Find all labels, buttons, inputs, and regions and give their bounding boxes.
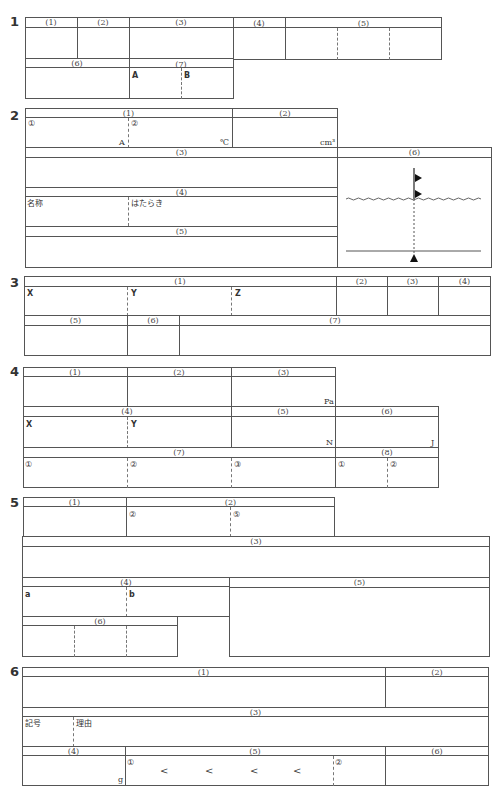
q2-answer-5[interactable] <box>26 237 337 267</box>
q4-header-6: (6) <box>335 407 439 416</box>
q4-header-7: (7) <box>23 448 335 457</box>
q4-answer-7-3[interactable] <box>232 458 334 487</box>
q4-answer-8-1[interactable] <box>336 458 386 487</box>
q3-header-6: (6) <box>127 316 179 325</box>
q1-answer-5[interactable] <box>286 28 441 59</box>
q3-answer-3[interactable] <box>388 287 437 315</box>
q1-header-6: (6) <box>25 59 129 68</box>
q5-answer-1[interactable] <box>24 507 125 536</box>
q4-answer-5[interactable] <box>232 417 334 447</box>
q4-answer-8-2[interactable] <box>388 458 438 487</box>
q4-header-3: (3) <box>231 368 336 377</box>
q3-answer-7[interactable] <box>180 326 490 355</box>
q2-answer-4-name[interactable] <box>26 197 127 225</box>
q5-header-2: (2) <box>126 498 335 507</box>
q3-answer-1z[interactable] <box>232 287 335 315</box>
q3-answer-5[interactable] <box>25 326 126 355</box>
q6-header-4: (4) <box>22 747 125 756</box>
q4-answer-7-2[interactable] <box>128 458 230 487</box>
q3-header-1: (1) <box>24 277 336 286</box>
q6-header-6: (6) <box>385 747 489 756</box>
question-number-4: 4 <box>10 364 19 379</box>
q1-answer-1[interactable] <box>26 28 76 59</box>
q4-header-4: (4) <box>23 407 231 416</box>
q2-answer-1-2[interactable] <box>129 118 231 147</box>
q4-header-2: (2) <box>127 368 231 377</box>
q6-answer-5-1[interactable] <box>126 756 332 785</box>
q1-answer-2[interactable] <box>78 28 128 59</box>
q3-header-2: (2) <box>336 277 387 286</box>
q1-answer-3[interactable] <box>130 28 232 59</box>
q6-answer-6[interactable] <box>386 756 488 785</box>
q6-header-2: (2) <box>385 668 489 677</box>
q4-header-8: (8) <box>335 448 439 457</box>
q4-header-1: (1) <box>23 368 127 377</box>
q4-answer-1[interactable] <box>24 377 126 406</box>
q4-answer-6[interactable] <box>336 417 438 447</box>
up-triangle-icon <box>410 254 418 262</box>
q2-header-1: (1) <box>25 109 232 118</box>
q6-answer-1[interactable] <box>23 677 384 707</box>
q6-answer-3-symbol[interactable] <box>23 717 72 746</box>
q3-answer-2[interactable] <box>337 287 386 315</box>
q5-answer-6-1[interactable] <box>23 626 73 656</box>
q5-answer-6-3[interactable] <box>127 626 177 656</box>
q3-answer-4[interactable] <box>439 287 490 315</box>
q3-answer-1y[interactable] <box>128 287 230 315</box>
q2-header-4: (4) <box>25 188 338 197</box>
q1-answer-4[interactable] <box>234 28 284 59</box>
q4-answer-4y[interactable] <box>128 417 230 447</box>
q5-answer-2a[interactable] <box>127 507 229 536</box>
q6-answer-3-reason[interactable] <box>74 717 488 746</box>
q5-answer-4a[interactable] <box>23 587 125 616</box>
question-number-5: 5 <box>10 495 19 510</box>
q4-header-5: (5) <box>231 407 335 416</box>
q1-header-2: (2) <box>77 18 129 27</box>
q1-header-3: (3) <box>129 18 233 27</box>
q6-header-1: (1) <box>22 668 385 677</box>
q5-header-4: (4) <box>22 578 230 587</box>
q5-answer-3[interactable] <box>23 547 489 577</box>
q6-header-5: (5) <box>125 747 385 756</box>
q5-answer-5[interactable] <box>230 588 489 656</box>
flag-triangle-icon <box>415 174 422 182</box>
q3-answer-1x[interactable] <box>25 287 126 315</box>
question-number-6: 6 <box>10 664 19 679</box>
q5-header-6: (6) <box>22 617 178 626</box>
question-number-3: 3 <box>10 275 19 290</box>
q5-answer-4b[interactable] <box>127 587 229 616</box>
q3-answer-6[interactable] <box>128 326 178 355</box>
q1-answer-7a[interactable] <box>130 68 180 98</box>
q5-answer-2b[interactable] <box>231 507 334 536</box>
q3-header-5: (5) <box>24 316 127 325</box>
q6-answer-4[interactable] <box>23 756 124 785</box>
q5-header-5: (5) <box>229 578 490 587</box>
q6-answer-2[interactable] <box>386 677 488 707</box>
q6-header-3: (3) <box>22 708 489 717</box>
q4-answer-2[interactable] <box>128 377 230 406</box>
q2-answer-3[interactable] <box>26 158 337 186</box>
q2-answer-2[interactable] <box>233 118 337 147</box>
question-number-2: 2 <box>10 108 19 123</box>
q2-header-5: (5) <box>25 227 338 236</box>
q2-6-diagram[interactable] <box>338 158 491 267</box>
q4-answer-4x[interactable] <box>24 417 126 447</box>
question-number-1: 1 <box>10 14 19 29</box>
q2-header-3: (3) <box>25 148 338 157</box>
q2-header-2: (2) <box>232 109 338 118</box>
q6-answer-5-2[interactable] <box>334 756 384 785</box>
q4-answer-3[interactable] <box>232 377 335 406</box>
q2-answer-4-function[interactable] <box>129 197 337 225</box>
q1-answer-6[interactable] <box>26 68 128 98</box>
q5-header-3: (3) <box>22 537 490 546</box>
q1-answer-7b[interactable] <box>182 68 232 98</box>
q1-header-1: (1) <box>25 18 77 27</box>
q3-header-7: (7) <box>179 316 491 325</box>
q1-header-5: (5) <box>285 19 442 28</box>
q5-answer-6-2[interactable] <box>75 626 125 656</box>
q2-header-6: (6) <box>337 148 492 157</box>
q4-answer-7-1[interactable] <box>24 458 126 487</box>
q2-answer-1-1[interactable] <box>26 118 127 147</box>
q1-header-4: (4) <box>233 19 285 28</box>
q3-header-4: (4) <box>438 277 491 286</box>
